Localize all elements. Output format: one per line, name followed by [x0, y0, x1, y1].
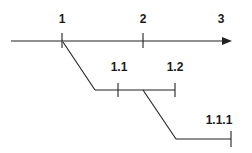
branch-2-connector — [143, 90, 176, 139]
branch-2: 1.1.1 — [143, 90, 233, 147]
branch-1: 1.1 1.2 — [63, 42, 184, 97]
main-axis: 1 2 3 — [11, 12, 232, 48]
label-2: 2 — [140, 12, 147, 26]
branch-1-connector — [63, 42, 95, 90]
branching-timeline-diagram: 1 2 3 1.1 1.2 1.1.1 — [0, 0, 252, 153]
label-1-1-1: 1.1.1 — [206, 113, 233, 127]
arrow-head-icon — [222, 37, 232, 45]
label-1: 1 — [59, 12, 66, 26]
label-3: 3 — [218, 12, 225, 26]
label-1-1: 1.1 — [111, 60, 128, 74]
label-1-2: 1.2 — [167, 60, 184, 74]
